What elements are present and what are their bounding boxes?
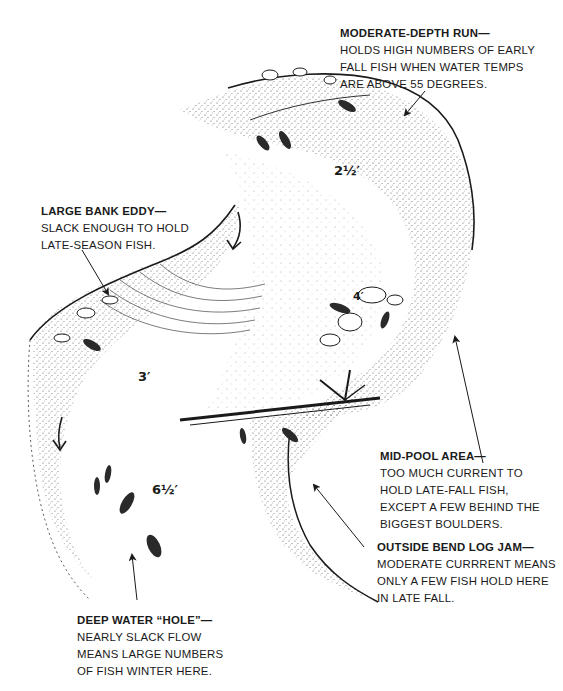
callout-line: SLACK ENOUGH TO HOLD <box>41 220 189 237</box>
callout-large-bank-eddy: LARGE BANK EDDY— SLACK ENOUGH TO HOLD LA… <box>41 203 189 254</box>
callout-line: MEANS LARGE NUMBERS <box>77 646 223 663</box>
callout-line: IN LATE FALL. <box>377 590 556 607</box>
callout-line: LATE-SEASON FISH. <box>41 237 189 254</box>
callout-title: MODERATE-DEPTH RUN— <box>340 25 535 42</box>
callout-line: OF FISH WINTER HERE. <box>77 663 223 680</box>
callout-mid-pool-area: MID-POOL AREA— TOO MUCH CURRENT TO HOLD … <box>380 448 540 533</box>
callout-deep-water-hole: DEEP WATER “HOLE”— NEARLY SLACK FLOW MEA… <box>77 612 223 680</box>
callout-outside-bend-log-jam: OUTSIDE BEND LOG JAM— MODERATE CURRRENT … <box>377 539 556 607</box>
callout-line: ARE ABOVE 55 DEGREES. <box>340 76 535 93</box>
callout-line: BIGGEST BOULDERS. <box>380 516 540 533</box>
depth-marker-6-5ft: 6½′ <box>152 482 178 497</box>
depth-marker-3ft: 3′ <box>138 369 150 384</box>
callout-line: ONLY A FEW FISH HOLD HERE <box>377 573 556 590</box>
depth-marker-4ft: 4′ <box>353 290 364 303</box>
callout-title: OUTSIDE BEND LOG JAM— <box>377 539 556 556</box>
callout-line: NEARLY SLACK FLOW <box>77 629 223 646</box>
callout-line: HOLD LATE-FALL FISH, <box>380 482 540 499</box>
callout-title: DEEP WATER “HOLE”— <box>77 612 223 629</box>
callout-title: LARGE BANK EDDY— <box>41 203 189 220</box>
right-lower-bank <box>250 395 378 602</box>
callout-line: EXCEPT A FEW BEHIND THE <box>380 499 540 516</box>
callout-title: MID-POOL AREA— <box>380 448 540 465</box>
callout-line: FALL FISH WHEN WATER TEMPS <box>340 59 535 76</box>
callout-line: TOO MUCH CURRENT TO <box>380 465 540 482</box>
depth-marker-2-5ft: 2½′ <box>334 163 360 178</box>
callout-line: MODERATE CURRRENT MEANS <box>377 556 556 573</box>
callout-line: HOLDS HIGH NUMBERS OF EARLY <box>340 42 535 59</box>
callout-moderate-depth-run: MODERATE-DEPTH RUN— HOLDS HIGH NUMBERS O… <box>340 25 535 93</box>
